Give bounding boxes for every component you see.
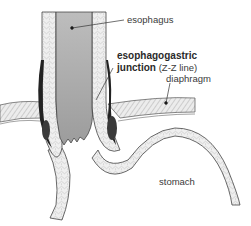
- label-stomach: stomach: [159, 176, 195, 187]
- label-ej-zline: (Z-Z line): [159, 62, 198, 73]
- label-diaphragm: diaphragm: [166, 73, 211, 84]
- anatomy-diagram: esophagus esophagogastric junction (Z-Z …: [0, 0, 251, 226]
- label-ej-junction: junction: [117, 62, 156, 73]
- label-esophagus: esophagus: [127, 14, 173, 25]
- label-esophagogastric-junction: esophagogastric junction (Z-Z line): [117, 50, 197, 74]
- stomach-left-wall: [48, 148, 70, 220]
- diagram-illustration: [0, 0, 251, 226]
- esophageal-lumen: [56, 12, 93, 145]
- label-ej-line1: esophagogastric: [117, 50, 197, 62]
